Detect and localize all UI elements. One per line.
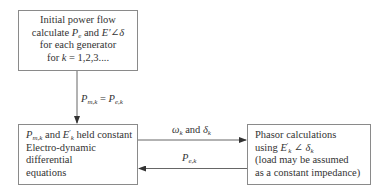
edge-label-pe: Pe,k: [182, 152, 196, 163]
node-text-line: (load may be assumed: [255, 154, 370, 167]
node-text-line: for each generator: [19, 39, 137, 52]
node-text-line: equations: [26, 167, 137, 180]
electro-dynamic-equations-box: Pm,k and E′k held constant Electro-dynam…: [18, 124, 138, 185]
edge-label-omega-delta: ωk and δk: [172, 124, 211, 135]
node-text-line: calculate Pe and E′∠δ: [19, 27, 137, 40]
node-text-line: Pm,k and E′k held constant: [26, 129, 137, 142]
initial-power-flow-box: Initial power flow calculate Pe and E′∠δ…: [18, 10, 138, 71]
node-text-line: using E′k ∠ δk: [255, 142, 370, 155]
phasor-calculations-box: Phasor calculations using E′k ∠ δk (load…: [247, 124, 371, 185]
node-text-line: Initial power flow: [19, 14, 137, 27]
node-text-line: Phasor calculations: [255, 129, 370, 142]
node-text-line: differential: [26, 154, 137, 167]
node-text-line: Electro-dynamic: [26, 142, 137, 155]
node-text-line: as a constant impedance): [255, 167, 370, 180]
node-text-line: for k = 1,2,3....: [19, 52, 137, 65]
edge-label-pm-equals-pe: Pm,k = Pe,k: [81, 93, 123, 104]
